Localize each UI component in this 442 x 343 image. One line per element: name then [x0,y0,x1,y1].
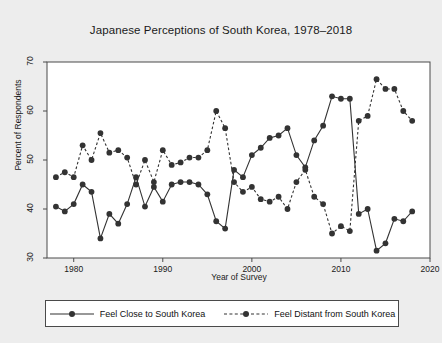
data-point [151,179,157,185]
chart-legend: Feel Close to South Korea Feel Distant f… [45,300,399,327]
legend-entry-distant: Feel Distant from South Korea [223,308,395,320]
y-tick-label: 60 [25,97,35,123]
data-point [409,118,415,124]
data-point [98,130,104,136]
data-point [124,155,130,161]
data-point [365,113,371,119]
data-point [204,147,210,153]
y-tick-label: 50 [25,146,35,172]
data-point [89,157,95,163]
y-tick-label: 30 [25,244,35,270]
legend-entry-close: Feel Close to South Korea [49,308,206,320]
data-point [276,133,282,139]
data-point [294,179,300,185]
data-point [169,182,175,188]
data-point [285,206,291,212]
data-point [178,179,184,185]
data-point [98,236,104,242]
data-point [320,123,326,129]
x-tick-label: 2010 [321,264,361,274]
y-tick-label: 70 [25,48,35,74]
data-point [196,155,202,161]
data-point [133,182,139,188]
data-point [276,194,282,200]
data-point [53,174,59,180]
plot-area [0,0,442,343]
data-point [400,108,406,114]
data-point [409,209,415,215]
data-point [383,240,389,246]
data-point [196,182,202,188]
data-point [400,218,406,224]
data-point [240,189,246,195]
data-point [213,108,219,114]
data-point [311,138,317,144]
data-point [80,142,86,148]
data-point [240,174,246,180]
data-point [222,125,228,131]
data-point [347,228,353,234]
data-point [106,150,112,156]
data-point [178,160,184,166]
y-tick-label: 40 [25,195,35,221]
legend-swatch-solid [49,308,95,320]
data-point [294,152,300,158]
data-point [106,211,112,217]
data-point [80,182,86,188]
legend-swatch-dashed [223,308,269,320]
data-point [391,216,397,222]
x-tick-label: 2020 [410,264,442,274]
data-point [356,118,362,124]
data-point [115,221,121,227]
data-point [204,191,210,197]
x-tick-label: 2000 [232,264,272,274]
data-point [213,218,219,224]
data-point [356,211,362,217]
chart-title: Japanese Perceptions of South Korea, 197… [0,24,442,36]
data-point [391,86,397,92]
data-point [71,201,77,207]
data-point [160,199,166,205]
data-point [142,204,148,210]
data-point [329,93,335,99]
data-point [187,155,193,161]
data-point [222,226,228,232]
data-point [71,174,77,180]
data-point [374,248,380,254]
chart-figure: Japanese Perceptions of South Korea, 197… [0,0,442,343]
data-point [258,196,264,202]
data-point [53,204,59,210]
data-point [160,147,166,153]
data-point [320,201,326,207]
data-point [89,189,95,195]
data-point [374,76,380,82]
data-point [115,147,121,153]
data-point [169,162,175,168]
x-tick-label: 1980 [54,264,94,274]
data-point [338,96,344,102]
data-point [187,179,193,185]
data-point [347,96,353,102]
data-point [383,86,389,92]
data-point [267,199,273,205]
data-point [62,169,68,175]
data-point [338,223,344,229]
data-point [285,125,291,131]
legend-label-distant: Feel Distant from South Korea [274,309,395,319]
x-tick-label: 1990 [143,264,183,274]
data-point [258,145,264,151]
data-point [249,152,255,158]
data-point [311,194,317,200]
data-point [142,157,148,163]
y-axis-label: Percent of Respondents [13,45,23,205]
data-point [302,167,308,173]
data-point [329,231,335,237]
data-point [249,184,255,190]
data-point [365,206,371,212]
data-point [124,201,130,207]
data-point [231,179,237,185]
legend-label-close: Feel Close to South Korea [100,309,206,319]
data-point [267,135,273,141]
data-point [62,209,68,215]
